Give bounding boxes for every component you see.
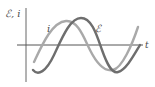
- y-axis-label: ℰ, i: [5, 8, 21, 19]
- x-axis-label: t: [145, 40, 149, 50]
- phasor-waveform-diagram: ℰ, i i ℰ t: [0, 0, 155, 87]
- current-label: i: [47, 23, 50, 34]
- emf-label: ℰ: [95, 23, 102, 34]
